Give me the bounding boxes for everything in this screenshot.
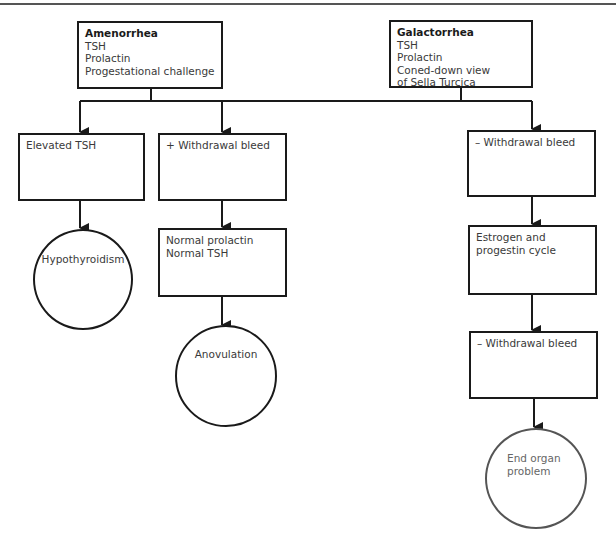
anovulation-circle: Anovulation [175, 325, 277, 427]
galactorrhea-box: Galactorrhea TSH Prolactin Coned-down vi… [389, 20, 533, 88]
estrogen-progestin-box: Estrogen and progestin cycle [468, 225, 597, 295]
box-line: + Withdrawal bleed [166, 139, 279, 152]
circle-label: Anovulation [177, 348, 275, 361]
box-line: – Withdrawal bleed [475, 136, 588, 149]
box-line: of Sella Turcica [397, 76, 525, 89]
box-line: Coned-down view [397, 64, 525, 77]
box-line: progestin cycle [476, 244, 589, 257]
galactorrhea-title: Galactorrhea [397, 26, 525, 39]
box-line: Normal TSH [166, 247, 279, 260]
circle-label: Hypothyroidism [35, 253, 131, 266]
box-line: Estrogen and [476, 231, 589, 244]
hypothyroidism-circle: Hypothyroidism [33, 229, 133, 330]
box-line: Prolactin [397, 51, 525, 64]
amenorrhea-box: Amenorrhea TSH Prolactin Progestational … [77, 21, 223, 89]
box-line: Progestational challenge [85, 65, 215, 78]
box-line: – Withdrawal bleed [477, 337, 590, 350]
box-line: TSH [397, 39, 525, 52]
normal-labs-box: Normal prolactin Normal TSH [158, 228, 287, 297]
circle-label: End organ [507, 452, 585, 465]
box-line: Prolactin [85, 52, 215, 65]
minus-withdrawal-bleed-box-1: – Withdrawal bleed [467, 130, 596, 197]
box-line: Normal prolactin [166, 234, 279, 247]
amenorrhea-title: Amenorrhea [85, 27, 215, 40]
elevated-tsh-box: Elevated TSH [18, 133, 145, 201]
end-organ-problem-circle: End organ problem [485, 428, 587, 529]
box-line: Elevated TSH [26, 139, 137, 152]
circle-label: problem [507, 465, 585, 478]
plus-withdrawal-bleed-box: + Withdrawal bleed [158, 133, 287, 201]
box-line: TSH [85, 40, 215, 53]
minus-withdrawal-bleed-box-2: – Withdrawal bleed [469, 331, 598, 399]
